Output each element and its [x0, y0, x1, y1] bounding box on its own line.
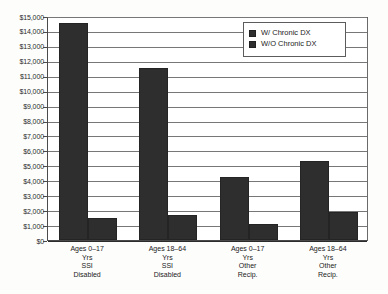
bar [329, 212, 358, 240]
y-axis-tick-mark [43, 107, 47, 108]
y-axis-tick-mark [43, 136, 47, 137]
x-axis-label-line: Ages 0–17 [208, 245, 288, 254]
y-axis-tick-mark [43, 122, 47, 123]
bar [168, 215, 197, 240]
x-axis-label-line: Disabled [47, 271, 127, 280]
y-axis-tick-mark [43, 181, 47, 182]
gridline [48, 241, 367, 242]
y-axis-tick-label: $6,000 [0, 148, 44, 155]
y-axis-tick-label: $10,000 [0, 88, 44, 95]
y-axis-tick-mark [43, 92, 47, 93]
y-axis-tick-label: $5,000 [0, 163, 44, 170]
x-axis-label-line: Ages 18–64 [288, 245, 368, 254]
bar [220, 177, 249, 240]
legend-item-with-chronic: W/ Chronic DX [249, 29, 340, 37]
y-axis-tick-label: $14,000 [0, 28, 44, 35]
legend-label-without-chronic: W/O Chronic DX [261, 40, 316, 48]
x-axis-label-line: Yrs [47, 254, 127, 263]
y-axis-tick-mark [43, 196, 47, 197]
bar [59, 23, 88, 240]
y-axis-tick-mark [43, 32, 47, 33]
bar [139, 68, 168, 240]
x-axis-category-label: Ages 0–17YrsSSIDisabled [47, 245, 127, 279]
bar [88, 218, 117, 240]
x-axis-label-line: Recip. [288, 271, 368, 280]
legend-item-without-chronic: W/O Chronic DX [249, 40, 340, 48]
y-axis-tick-label: $12,000 [0, 58, 44, 65]
x-axis-label-line: Disabled [127, 271, 207, 280]
y-axis-tick-label: $8,000 [0, 118, 44, 125]
x-axis-category-label: Ages 18–64YrsSSIDisabled [127, 245, 207, 279]
y-axis-tick-mark [43, 77, 47, 78]
x-axis-label-line: SSI [47, 262, 127, 271]
x-axis-label-line: Yrs [208, 254, 288, 263]
x-axis-category-label: Ages 0–17YrsOtherRecip. [208, 245, 288, 279]
y-axis-tick-mark [43, 211, 47, 212]
x-axis-label-line: Yrs [127, 254, 207, 263]
y-axis-tick-mark [43, 62, 47, 63]
y-axis-tick-label: $7,000 [0, 133, 44, 140]
y-axis-tick-mark [43, 151, 47, 152]
y-axis-tick-label: $3,000 [0, 193, 44, 200]
y-axis-tick-mark [43, 166, 47, 167]
legend-swatch-icon [249, 30, 256, 37]
bar-chart: $15,000$14,000$13,000$12,000$11,000$10,0… [0, 0, 388, 294]
x-axis-label-line: Other [208, 262, 288, 271]
x-axis-label-line: Other [288, 262, 368, 271]
y-axis-tick-label: $15,000 [0, 14, 44, 21]
y-axis-tick-label: $11,000 [0, 73, 44, 80]
legend-swatch-icon [249, 41, 256, 48]
y-axis-tick-mark [43, 226, 47, 227]
y-axis-tick-label: $1,000 [0, 223, 44, 230]
legend: W/ Chronic DX W/O Chronic DX [243, 22, 346, 57]
y-axis-tick-mark [43, 17, 47, 18]
x-axis-category-label: Ages 18–64YrsOtherRecip. [288, 245, 368, 279]
y-axis-tick-mark [43, 241, 47, 242]
y-axis-tick-label: $13,000 [0, 43, 44, 50]
x-axis-label-line: SSI [127, 262, 207, 271]
y-axis-tick-mark [43, 47, 47, 48]
x-axis-label-line: Recip. [208, 271, 288, 280]
x-axis-label-line: Ages 18–64 [127, 245, 207, 254]
y-axis-tick-label: $0 [0, 238, 44, 245]
bar [249, 224, 278, 240]
x-axis-label-line: Ages 0–17 [47, 245, 127, 254]
x-axis-label-line: Yrs [288, 254, 368, 263]
bar [300, 161, 329, 240]
legend-label-with-chronic: W/ Chronic DX [261, 29, 311, 37]
y-axis-tick-label: $9,000 [0, 103, 44, 110]
y-axis-tick-label: $4,000 [0, 178, 44, 185]
y-axis-tick-label: $2,000 [0, 208, 44, 215]
